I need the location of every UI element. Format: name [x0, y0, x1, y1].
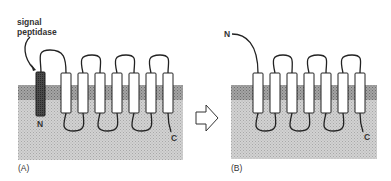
panel-a-c-terminus: C [171, 133, 177, 143]
callout-label-line1: signal [17, 17, 42, 27]
signal-sequence-segment [36, 72, 45, 116]
panel-b-label: (B) [231, 163, 243, 173]
transition-arrow-icon [196, 105, 218, 131]
membrane-protein-diagram: signal peptidase N C (A) [0, 0, 391, 181]
panel-b-c-terminus: C [364, 132, 370, 142]
callout-label-line2: peptidase [17, 27, 57, 37]
panel-b-helices [253, 73, 365, 113]
panel-a: signal peptidase N C (A) [17, 17, 183, 173]
panel-a-label: (A) [18, 163, 30, 173]
panel-a-helices [61, 73, 173, 113]
panel-a-n-terminus: N [37, 119, 43, 129]
panel-b: N C (B) [224, 29, 377, 173]
panel-b-n-terminus: N [224, 29, 230, 39]
